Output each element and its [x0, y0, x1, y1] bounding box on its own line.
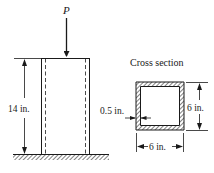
wall-thickness-label: 0.5 in.: [100, 106, 124, 116]
section-height-label: 6 in.: [187, 103, 204, 113]
column-height-label: 14 in.: [8, 104, 30, 114]
column-diagram: P 14 in. Cross section 0.5 in.: [0, 0, 214, 173]
arrowhead-down-icon: [197, 123, 202, 130]
load-arrow: P: [62, 4, 70, 56]
arrowhead-right-icon: [130, 116, 136, 120]
section-width-label: 6 in.: [149, 142, 166, 152]
cross-section: Cross section 0.5 in. 6 in. 6 in.: [100, 57, 208, 152]
arrowhead-down-icon: [22, 147, 27, 154]
ground-support: [13, 155, 109, 161]
column: [42, 59, 90, 155]
arrowhead-up-icon: [197, 83, 202, 90]
hollow-square-section: [136, 82, 184, 130]
arrowhead-left-icon: [141, 116, 147, 120]
ground-hatch: [13, 155, 109, 160]
arrowhead-up-icon: [22, 59, 27, 66]
arrowhead-right-icon: [176, 144, 183, 149]
arrowhead-left-icon: [137, 144, 144, 149]
cross-section-title: Cross section: [130, 57, 184, 68]
column-height-dimension: 14 in.: [8, 59, 41, 155]
column-outline: [42, 59, 90, 155]
load-label: P: [62, 4, 70, 16]
